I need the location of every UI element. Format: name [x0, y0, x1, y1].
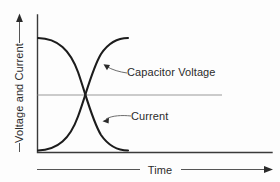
- chart-axes: [38, 15, 273, 153]
- chart-canvas: Capacitor Voltage Current Voltage and Cu…: [0, 0, 280, 182]
- y-axis-label-text: Voltage and Current: [13, 43, 25, 143]
- x-axis-label-text: Time: [148, 164, 172, 176]
- current-leader-arrow-icon: [103, 118, 110, 124]
- annotation-capacitor-voltage: Capacitor Voltage: [127, 66, 216, 78]
- arrow-right-icon: [264, 166, 273, 173]
- curve-capacitor-voltage: [38, 38, 128, 151]
- curve-current: [38, 38, 128, 151]
- capacitor-voltage-leader-line: [106, 66, 127, 73]
- y-axis-label-group: Voltage and Current: [13, 14, 25, 153]
- rc-curve-figure: Capacitor Voltage Current Voltage and Cu…: [0, 0, 280, 182]
- capacitor-voltage-leader-arrow-icon: [104, 64, 111, 70]
- x-axis-label-group: Time: [37, 164, 273, 176]
- arrow-up-icon: [16, 14, 23, 23]
- current-leader-line: [106, 116, 131, 119]
- annotation-current: Current: [131, 110, 168, 122]
